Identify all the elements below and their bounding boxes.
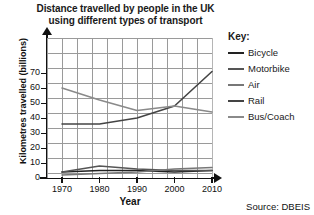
legend-item-label: Motorbike [248, 64, 290, 74]
legend: Key: BicycleMotorbikeAirRailBus/Coach [228, 31, 314, 125]
y-tick-label: 10 [2, 158, 40, 167]
x-tick-label: 1990 [117, 185, 157, 194]
y-tick-label: 50 [2, 98, 40, 107]
legend-item-motorbike[interactable]: Motorbike [228, 61, 314, 77]
y-axis-arrow [42, 27, 52, 35]
y-tick-label: 0 [2, 173, 40, 182]
chart-title: Distance travelled by people in the UK u… [18, 3, 233, 27]
legend-item-label: Rail [248, 96, 264, 106]
legend-swatch-line-icon [228, 84, 244, 86]
x-axis-arrow [214, 173, 222, 183]
x-tick-label: 1980 [80, 185, 120, 194]
legend-swatch-line-icon [228, 116, 244, 118]
legend-item-bus-coach[interactable]: Bus/Coach [228, 109, 314, 125]
legend-swatch-line-icon [228, 52, 244, 54]
legend-item-air[interactable]: Air [228, 77, 314, 93]
chart-title-line-2: using different types of transport [18, 15, 233, 27]
y-tick-label: 70 [2, 68, 40, 77]
series-lines [47, 38, 213, 178]
legend-swatch-line-icon [228, 100, 244, 102]
x-axis-title: Year [90, 196, 170, 207]
series-line-rail [62, 72, 212, 125]
x-tick-label: 1970 [42, 185, 82, 194]
x-tick-label: 2010 [192, 185, 232, 194]
legend-swatch-line-icon [228, 68, 244, 70]
legend-item-label: Bus/Coach [248, 112, 294, 122]
y-axis-ticks: 706050403020100 [0, 0, 40, 215]
x-tick-mark [61, 177, 63, 183]
x-tick-mark [136, 177, 138, 183]
chart-title-line-1: Distance travelled by people in the UK [37, 3, 215, 14]
legend-item-rail[interactable]: Rail [228, 93, 314, 109]
legend-item-bicycle[interactable]: Bicycle [228, 45, 314, 61]
y-tick-label: 60 [2, 83, 40, 92]
x-tick-mark [99, 177, 101, 183]
x-tick-mark [211, 177, 213, 183]
plot-area [47, 38, 213, 178]
legend-item-label: Bicycle [248, 48, 278, 58]
y-tick-label: 30 [2, 128, 40, 137]
x-tick-label: 2000 [155, 185, 195, 194]
y-tick-label: 20 [2, 143, 40, 152]
legend-item-label: Air [248, 80, 260, 90]
source-note: Source: DBEIS [246, 201, 310, 212]
chart-screenshot: Distance travelled by people in the UK u… [0, 0, 314, 215]
y-tick-label: 40 [2, 113, 40, 122]
x-tick-mark [174, 177, 176, 183]
legend-title: Key: [228, 31, 314, 42]
